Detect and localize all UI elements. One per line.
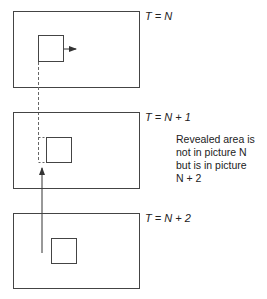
frame-label-n: T = N (145, 10, 172, 22)
frame-label-n-plus-1: T = N + 1 (145, 111, 191, 123)
note-line: N + 2 (176, 172, 266, 185)
revealed-area-note: Revealed area is not in picture N but is… (176, 133, 266, 185)
note-line: Revealed area is (176, 133, 266, 146)
object-square-n-plus-1 (47, 138, 72, 163)
object-square-n-plus-2 (52, 239, 77, 264)
frame-n (14, 12, 140, 88)
note-line: not in picture N (176, 146, 266, 159)
frame-n-plus-1 (14, 113, 140, 189)
note-line: but is in picture (176, 159, 266, 172)
object-square-n (39, 36, 64, 62)
frame-label-n-plus-2: T = N + 2 (145, 212, 191, 224)
